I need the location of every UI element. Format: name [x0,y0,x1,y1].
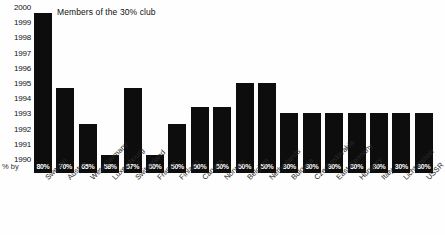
bar [168,124,186,160]
bar-column [415,8,433,160]
bar [236,83,254,160]
bar-column [101,8,119,160]
y-axis-tick: 1993 [14,110,31,118]
bar-column [370,8,388,160]
bar-column [392,8,410,160]
bar-column [325,8,343,160]
y-axis-tick: 1992 [14,126,31,134]
bar-column [79,8,97,160]
plot-area [34,8,437,160]
y-axis-tick: 1995 [14,80,31,88]
bar [79,124,97,160]
bar-column [236,8,254,160]
y-axis-tick: 1998 [14,34,31,42]
bar [370,113,388,160]
bar [213,107,231,160]
bar [258,83,276,160]
bar [392,113,410,160]
bar-column [34,8,52,160]
y-axis-tick: 1996 [14,65,31,73]
y-axis-tick: 1991 [14,141,31,149]
bar-column [56,8,74,160]
percent-row-label: % by [2,163,19,171]
x-axis-labels: SwedenAustriaWest GermanyLuxembourgSwitz… [34,176,437,235]
bar [191,107,209,160]
bar-column [280,8,298,160]
y-axis-tick: 2000 [14,4,31,12]
bar-column [258,8,276,160]
bar-column [348,8,366,160]
y-axis-tick: 1999 [14,19,31,27]
y-axis-tick: 1994 [14,95,31,103]
y-axis-tick: 1997 [14,50,31,58]
bar-column [146,8,164,160]
bar-column [124,8,142,160]
bar-column [168,8,186,160]
bar [56,88,74,160]
bar-column [213,8,231,160]
bar-column [191,8,209,160]
bar-column [303,8,321,160]
bar [34,13,52,160]
y-axis: 2000199919981997199619951994199319921991… [0,0,33,160]
bar [303,113,321,160]
